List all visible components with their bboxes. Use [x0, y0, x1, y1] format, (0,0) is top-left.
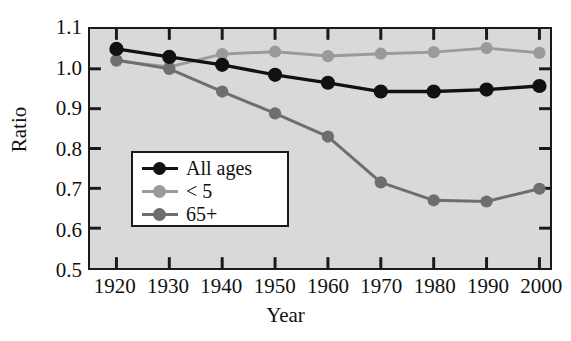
data-point — [269, 46, 281, 58]
data-point — [321, 76, 335, 90]
y-axis-tick-label: 0.6 — [34, 219, 82, 240]
data-point — [479, 82, 493, 96]
y-axis-tick-label: 1.1 — [34, 17, 82, 38]
x-axis-title: Year — [0, 303, 571, 328]
x-axis-tick-label: 2000 — [520, 276, 562, 297]
y-axis-tick-label: 1.0 — [34, 57, 82, 78]
data-point — [163, 63, 175, 75]
data-point — [162, 50, 176, 64]
legend-marker-dot — [153, 208, 166, 221]
x-axis-tick-label: 1940 — [200, 276, 242, 297]
x-axis-tick-label: 1960 — [307, 276, 349, 297]
line-chart-figure: Ratio 0.50.60.70.80.91.01.1 192019301940… — [0, 0, 571, 341]
data-point — [480, 42, 492, 54]
data-point — [268, 68, 282, 82]
legend-item-5: < 5 — [133, 179, 287, 202]
data-point — [269, 107, 281, 119]
x-axis-tick-label: 1990 — [467, 276, 509, 297]
data-point — [532, 79, 546, 93]
data-point — [375, 176, 387, 188]
x-axis-tick-label: 1970 — [360, 276, 402, 297]
legend-swatch — [140, 159, 180, 177]
x-axis-tick-label: 1980 — [414, 276, 456, 297]
data-point — [480, 195, 492, 207]
data-point — [375, 48, 387, 60]
x-axis-tick-label: 1950 — [254, 276, 296, 297]
legend-label: All ages — [180, 158, 252, 178]
plot-area — [88, 27, 552, 270]
x-axis-tick-label: 1920 — [94, 276, 136, 297]
data-point — [533, 47, 545, 59]
legend-swatch — [140, 205, 180, 223]
data-point — [374, 84, 388, 98]
legend-label: < 5 — [180, 181, 212, 201]
plot-svg — [90, 29, 550, 268]
x-axis-tick-labels: 192019301940195019601970198019902000 — [0, 276, 571, 304]
legend-item-65: 65+ — [133, 202, 287, 225]
data-point — [215, 58, 229, 72]
y-axis-tick-label: 0.9 — [34, 98, 82, 119]
legend-marker-dot — [153, 162, 166, 175]
data-point — [533, 183, 545, 195]
legend-label: 65+ — [180, 204, 217, 224]
legend-swatch — [140, 182, 180, 200]
x-axis-tick-label: 1930 — [147, 276, 189, 297]
data-point — [216, 85, 228, 97]
data-point — [427, 84, 441, 98]
legend-item-all-ages: All ages — [133, 156, 287, 179]
data-point — [428, 194, 440, 206]
y-axis-tick-label: 0.8 — [34, 138, 82, 159]
legend: All ages< 565+ — [131, 151, 289, 227]
data-point — [322, 130, 334, 142]
data-point — [428, 46, 440, 58]
data-point — [109, 42, 123, 56]
data-point — [322, 50, 334, 62]
y-axis-tick-label: 0.7 — [34, 179, 82, 200]
legend-marker-dot — [153, 185, 166, 198]
